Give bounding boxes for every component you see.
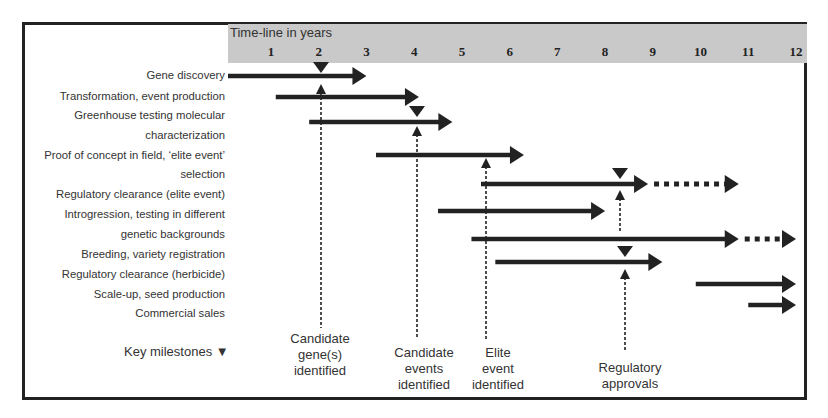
- task-arrowhead: [352, 67, 366, 85]
- task-arrowhead: [725, 230, 739, 248]
- task-arrowhead: [782, 275, 796, 293]
- task-arrowhead: [634, 175, 648, 193]
- task-arrowhead: [591, 202, 605, 220]
- milestone-up-arrowhead: [412, 126, 422, 136]
- task-arrowhead: [648, 253, 662, 271]
- milestone-triangle-icon: [617, 246, 633, 257]
- milestone-triangle-icon: [612, 168, 628, 179]
- task-arrowhead: [438, 113, 452, 131]
- milestone-up-arrowhead: [481, 158, 491, 168]
- timeline-chart: [0, 0, 828, 418]
- task-arrowhead: [510, 146, 524, 164]
- milestone-up-arrowhead: [620, 269, 630, 279]
- milestone-triangle-icon: [313, 62, 329, 73]
- milestone-up-arrowhead: [615, 190, 625, 200]
- task-arrowhead-dotted: [782, 230, 796, 248]
- task-arrowhead-dotted: [725, 175, 739, 193]
- milestone-triangle-icon: [409, 106, 425, 117]
- task-arrowhead: [405, 88, 419, 106]
- task-arrowhead: [782, 296, 796, 314]
- milestone-up-arrowhead: [316, 84, 326, 94]
